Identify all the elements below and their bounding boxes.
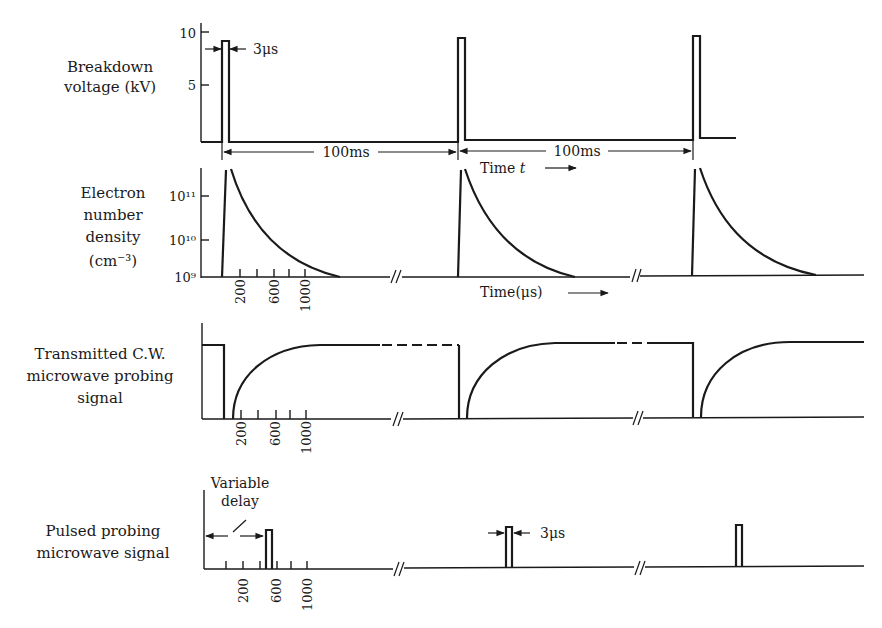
panel-label-line: Pulsed probing — [46, 522, 161, 540]
transmitted-cw-panel: Transmitted C.W. microwave probing signa… — [27, 323, 865, 454]
density-rise — [222, 170, 226, 277]
x-ticks — [240, 269, 305, 277]
time-axis-label: Time(μs) — [480, 284, 543, 300]
density-decay — [231, 169, 340, 277]
axis-break-icon — [394, 562, 404, 576]
axis-break-icon — [635, 561, 645, 575]
x-tick-label: 1000 — [300, 578, 315, 611]
density-rise — [692, 169, 695, 276]
cw-recovery — [467, 343, 615, 418]
x-axis — [403, 418, 633, 419]
x-ticks — [241, 410, 306, 419]
x-tick-label: 200 — [236, 578, 251, 603]
density-decay — [700, 168, 816, 275]
x-axis — [404, 567, 634, 568]
probe-pulse — [736, 525, 742, 566]
panel-label-line: Transmitted C.W. — [34, 345, 165, 363]
x-tick-label: 600 — [267, 279, 282, 304]
delay-label-line: delay — [221, 493, 259, 509]
density-rise — [458, 170, 461, 277]
x-tick-label: 600 — [268, 421, 283, 446]
panel-label-line: microwave probing — [27, 367, 174, 385]
panel-label-line: voltage (kV) — [63, 78, 156, 96]
time-axis-label: Time t — [480, 160, 526, 176]
delay-label-line: Variable — [210, 475, 269, 491]
cw-recovery — [233, 345, 380, 419]
density-decay — [465, 169, 575, 277]
pulse-width-label: 3μs — [253, 41, 278, 57]
panel-label-line: signal — [77, 389, 123, 407]
y-tick-label: 10⁹ — [174, 270, 196, 285]
x-tick-label: 600 — [269, 578, 284, 603]
pulsed-probing-panel: Pulsed probing microwave signal Variable… — [36, 475, 864, 611]
axis-break-icon — [393, 412, 403, 426]
probe-pulse — [266, 530, 272, 569]
electron-density-panel: Electron number density (cm⁻³) 10¹¹ 10¹⁰… — [81, 168, 864, 312]
axis-break-icon — [632, 269, 641, 282]
cw-recovery — [701, 342, 864, 417]
breakdown-pulse-train — [201, 36, 736, 142]
delay-leader-line — [233, 520, 246, 532]
x-tick-label: 1000 — [298, 279, 313, 312]
x-tick-label: 200 — [234, 421, 249, 446]
panel-label-line: density — [85, 228, 141, 246]
axis-break-icon — [633, 411, 643, 425]
panel-label-line: (cm⁻³) — [89, 252, 137, 270]
panel-label-line: Breakdown — [67, 58, 154, 76]
period-label: 100ms — [322, 144, 369, 160]
y-tick-label: 5 — [188, 78, 196, 93]
cw-signal-initial — [202, 345, 224, 419]
pulse-width-label: 3μs — [540, 525, 565, 541]
time-variable: t — [520, 160, 526, 176]
panel-label-line: number — [83, 206, 143, 224]
axis-break-icon — [391, 270, 401, 283]
cw-cutoff — [653, 343, 693, 417]
x-axis — [640, 275, 864, 276]
y-tick-label: 10 — [179, 26, 196, 41]
y-tick-label: 10¹⁰ — [169, 233, 196, 248]
x-tick-label: 1000 — [299, 421, 314, 454]
y-tick-label: 10¹¹ — [169, 189, 196, 204]
probe-pulse — [506, 527, 512, 567]
x-axis — [645, 566, 864, 567]
panel-label-line: Electron — [81, 184, 146, 202]
panel-label-line: microwave signal — [36, 544, 169, 562]
breakdown-voltage-panel: Breakdown voltage (kV) 10 5 3μs 100ms 10… — [63, 23, 736, 176]
x-axis — [643, 417, 864, 418]
x-tick-label: 200 — [233, 279, 248, 304]
timing-diagram: Breakdown voltage (kV) 10 5 3μs 100ms 10… — [0, 0, 882, 628]
period-label: 100ms — [553, 143, 600, 159]
